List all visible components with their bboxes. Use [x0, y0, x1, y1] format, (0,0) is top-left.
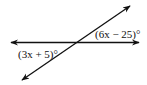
intersecting-lines-diagram: (6x − 25)° (3x + 5)°	[0, 0, 147, 85]
angle-label-lower-left: (3x + 5)°	[18, 48, 58, 61]
angle-label-upper-right: (6x − 25)°	[95, 28, 140, 41]
